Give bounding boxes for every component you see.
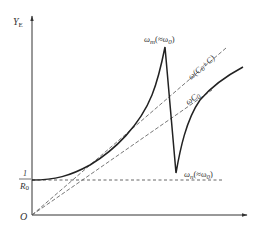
peak-label: ωm(≈ω0) [144, 34, 175, 46]
omega-c0-line [32, 90, 212, 215]
intercept-numerator: 1 [23, 169, 27, 178]
admittance-diagram: YE O 1 R0 ωm(≈ω0) ωn(≈ω0) ω(C0+C) ωC0 [0, 0, 259, 232]
omega-c0-plus-c-label: ω(C0+C) [186, 53, 218, 83]
y-axis-label: YE [13, 16, 23, 29]
omega-c0-label: ωC0 [183, 89, 202, 107]
origin-label: O [20, 211, 27, 222]
dip-label: ωn(≈ω0) [184, 169, 213, 181]
intercept-denominator: R0 [19, 181, 30, 192]
admittance-curve [32, 47, 243, 180]
